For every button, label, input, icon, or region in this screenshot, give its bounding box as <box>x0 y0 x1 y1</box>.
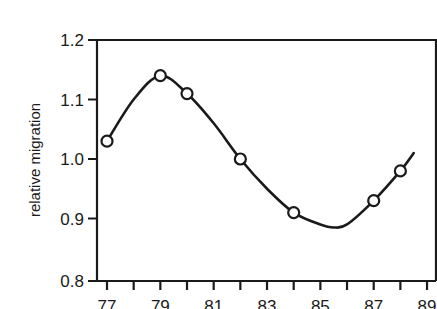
data-point-markers <box>102 70 406 218</box>
data-point <box>182 88 193 99</box>
x-tick-label: 87 <box>364 297 383 309</box>
axes <box>97 40 436 281</box>
x-tick-label: 79 <box>151 297 170 309</box>
plot-frame <box>97 40 436 281</box>
x-tick-label: 83 <box>258 297 277 309</box>
y-tick-label: 0.9 <box>60 210 84 229</box>
data-point <box>235 154 246 165</box>
data-point <box>102 136 113 147</box>
x-axis-ticks: 77798183858789 <box>98 281 437 309</box>
y-tick-label: 1.1 <box>60 91 84 110</box>
x-tick-label: 89 <box>418 297 437 309</box>
data-point <box>288 207 299 218</box>
y-tick-label: 1.0 <box>60 150 84 169</box>
y-axis-title: relative migration <box>26 103 43 217</box>
y-tick-label: 0.8 <box>60 272 84 291</box>
x-tick-label: 85 <box>311 297 330 309</box>
fitted-curve <box>107 76 414 228</box>
data-point <box>395 165 406 176</box>
data-point <box>368 195 379 206</box>
relative-migration-chart: 0.80.91.01.11.2 77798183858789 relative … <box>0 0 437 309</box>
data-point <box>155 70 166 81</box>
y-tick-label: 1.2 <box>60 31 84 50</box>
x-tick-label: 77 <box>98 297 117 309</box>
y-axis-ticks: 0.80.91.01.11.2 <box>60 31 97 291</box>
x-tick-label: 81 <box>204 297 223 309</box>
